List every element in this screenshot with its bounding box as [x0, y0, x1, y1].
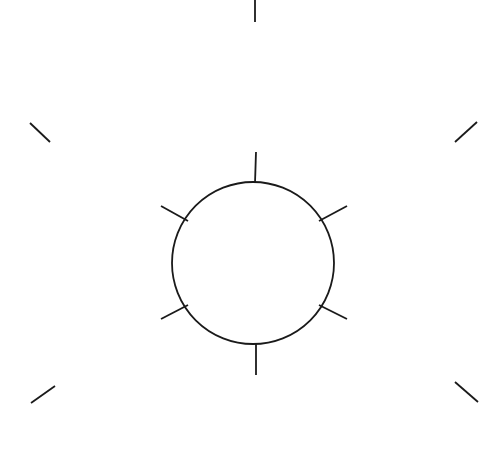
- sun-figure: [0, 0, 503, 461]
- drawing-canvas: [0, 0, 503, 461]
- ray-top: [255, 152, 256, 183]
- canvas-background: [0, 0, 503, 461]
